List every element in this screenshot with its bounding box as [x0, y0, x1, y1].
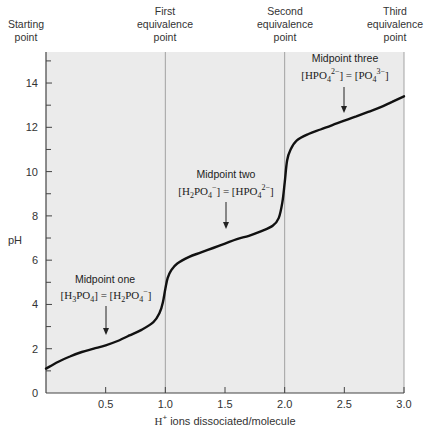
y-tick-label: 2 — [32, 343, 38, 355]
y-axis-label: pH — [8, 234, 22, 246]
x-tick-label: 0.5 — [98, 398, 113, 410]
y-tick-label: 12 — [26, 121, 38, 133]
x-tick-label: 2.5 — [337, 398, 352, 410]
titration-chart: 02468101214 0.51.01.52.02.53.0 Midpoint … — [0, 0, 430, 432]
x-tick-label: 1.5 — [217, 398, 232, 410]
y-tick-label: 0 — [32, 387, 38, 399]
y-tick-label: 10 — [26, 166, 38, 178]
x-tick-label: 1.0 — [158, 398, 173, 410]
y-tick-label: 14 — [26, 77, 38, 89]
midpoint-two-title: Midpoint two — [197, 168, 256, 180]
y-tick-label: 6 — [32, 254, 38, 266]
x-axis-label: H+ ions dissociated/molecule — [154, 413, 295, 427]
x-tick-label: 3.0 — [396, 398, 411, 410]
midpoint-one-title: Midpoint one — [75, 273, 135, 285]
x-tick-label: 2.0 — [277, 398, 292, 410]
midpoint-three-title: Midpoint three — [312, 52, 379, 64]
y-tick-label: 8 — [32, 210, 38, 222]
y-tick-label: 4 — [32, 298, 38, 310]
